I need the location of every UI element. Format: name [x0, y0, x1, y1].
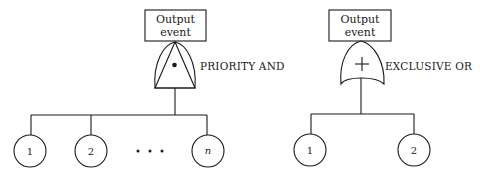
input-label: 1 — [27, 146, 33, 157]
input-label: 2 — [411, 145, 417, 156]
output-box-line1: Output — [340, 13, 380, 26]
priority-and-gate-icon — [155, 42, 195, 88]
ellipsis-dot — [137, 150, 140, 153]
input-label: 2 — [88, 146, 94, 157]
xor-input-event-1: 1 — [294, 134, 326, 166]
input-event-2: 2 — [75, 135, 107, 167]
exclusive-or-label: EXCLUSIVE OR — [385, 60, 473, 72]
diagram-canvas: Output event PRIORITY AND — [0, 0, 486, 177]
fault-tree-diagram: Output event PRIORITY AND — [0, 0, 486, 177]
priority-and-connectors — [31, 88, 207, 135]
ellipsis — [137, 150, 164, 153]
priority-dot-icon — [172, 63, 177, 68]
priority-and-group: Output event PRIORITY AND — [14, 10, 285, 167]
priority-and-output-box: Output event — [145, 10, 206, 41]
output-box-line2: event — [345, 26, 376, 39]
input-label: 1 — [307, 145, 313, 156]
output-box-line2: event — [160, 26, 191, 39]
exclusive-or-gate-icon — [341, 41, 384, 84]
ellipsis-dot — [149, 150, 152, 153]
exclusive-or-connectors — [311, 78, 414, 134]
xor-input-event-2: 2 — [398, 134, 430, 166]
input-label: n — [205, 145, 211, 156]
exclusive-or-output-box: Output event — [329, 10, 391, 41]
ellipsis-dot — [161, 150, 164, 153]
input-event-1: 1 — [14, 135, 46, 167]
output-box-line1: Output — [156, 13, 196, 26]
input-event-n: n — [192, 135, 224, 167]
priority-and-label: PRIORITY AND — [200, 60, 285, 72]
exclusive-or-group: Output event EXCLUSIVE OR 1 — [294, 10, 473, 166]
